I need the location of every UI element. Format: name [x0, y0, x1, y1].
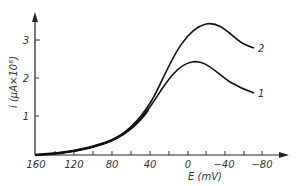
chart: 160 120 80 40 0 −40 −80 E (mV) 1 2 3 i (…	[0, 0, 299, 186]
curve-1	[35, 62, 254, 155]
curve-2-label: 2	[258, 43, 264, 54]
x-tick-label: 40	[144, 159, 157, 170]
x-tick-label: −80	[251, 159, 272, 170]
x-axis-label: E (mV)	[188, 171, 222, 182]
y-tick-label: 1	[23, 111, 29, 122]
y-axis-label: i (μA×10⁶)	[8, 56, 19, 108]
curve-2	[35, 24, 254, 155]
y-ticks	[35, 40, 40, 116]
curve-1-label: 1	[258, 88, 264, 99]
x-tick-label: 160	[26, 159, 45, 170]
y-tick-label: 2	[23, 73, 29, 84]
x-axis-arrow-icon	[279, 152, 289, 158]
x-tick-label: 0	[185, 159, 191, 170]
x-tick-label: 80	[106, 159, 119, 170]
x-tick-label: −40	[213, 159, 234, 170]
y-axis-arrow-icon	[32, 12, 38, 22]
y-tick-label: 3	[23, 35, 29, 46]
curve-overlap	[35, 110, 148, 155]
x-tick-label: 120	[64, 159, 83, 170]
